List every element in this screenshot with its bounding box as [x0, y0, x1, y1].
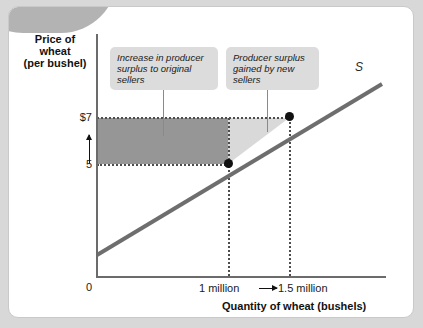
- x-tick-label-15m: 1.5 million: [278, 282, 328, 294]
- callout-increase-original-sellers: Increase in producer surplus to original…: [110, 47, 218, 90]
- y-axis-title: Price of wheat (per bushel): [18, 33, 92, 69]
- origin-label: 0: [86, 281, 92, 293]
- callout-leader-1: [163, 90, 164, 136]
- y-tick-label-7: $7: [68, 111, 92, 123]
- y-axis-title-line3: (per bushel): [18, 57, 92, 69]
- guide-quantity-1m: [228, 118, 230, 276]
- y-axis-title-line2: wheat: [18, 45, 92, 57]
- guide-quantity-15m: [289, 118, 291, 276]
- guide-price-5: [97, 164, 229, 166]
- supply-curve-label: S: [355, 60, 363, 74]
- point-original-equilibrium: [224, 159, 233, 168]
- region-gained-new-sellers: [228, 117, 290, 164]
- point-new-equilibrium: [285, 112, 294, 121]
- figure-root: $7 5 1 million 1.5 million Price of whea…: [0, 0, 423, 328]
- guide-price-7: [97, 117, 291, 119]
- callout-gained-new-sellers: Producer surplus gained by new sellers: [226, 47, 319, 90]
- x-tick-label-1m: 1 million: [199, 282, 239, 294]
- x-axis-title: Quantity of wheat (bushels): [222, 300, 366, 312]
- y-axis: [96, 34, 98, 278]
- x-axis: [96, 276, 386, 278]
- y-axis-title-line1: Price of: [18, 33, 92, 45]
- plot-area: $7 5 1 million 1.5 million Price of whea…: [0, 0, 423, 328]
- quantity-change-arrow: [259, 288, 277, 289]
- callout-leader-2: [267, 90, 268, 132]
- price-change-arrow: [89, 135, 90, 163]
